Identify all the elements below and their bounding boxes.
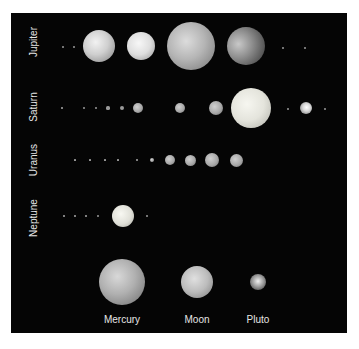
jupiter-moon-5 bbox=[227, 27, 265, 65]
neptune-moon-0 bbox=[63, 215, 65, 217]
label-moon: Moon bbox=[184, 314, 209, 325]
neptune-moon-2 bbox=[85, 215, 87, 217]
saturn-moon-1 bbox=[83, 107, 85, 109]
moon-body bbox=[181, 266, 213, 298]
row-label-saturn: Saturn bbox=[28, 92, 39, 121]
saturn-moon-6 bbox=[175, 103, 185, 113]
mercury-body bbox=[99, 259, 145, 305]
saturn-moon-5 bbox=[133, 103, 143, 113]
uranus-moon-3 bbox=[117, 159, 118, 160]
label-mercury: Mercury bbox=[104, 314, 140, 325]
jupiter-moon-3 bbox=[127, 32, 155, 60]
saturn-moon-4 bbox=[120, 106, 124, 110]
saturn-moon-7 bbox=[209, 101, 223, 115]
uranus-moon-7 bbox=[185, 155, 196, 166]
jupiter-moon-1 bbox=[73, 46, 75, 48]
neptune-moon-5 bbox=[146, 215, 148, 217]
jupiter-moon-4 bbox=[167, 22, 215, 70]
jupiter-moon-2 bbox=[83, 30, 115, 62]
saturn-moon-0 bbox=[61, 107, 63, 109]
neptune-moon-4 bbox=[112, 205, 134, 227]
uranus-moon-2 bbox=[104, 159, 105, 160]
row-label-uranus: Uranus bbox=[28, 144, 39, 176]
uranus-moon-6 bbox=[165, 155, 175, 165]
saturn-moon-10 bbox=[300, 102, 312, 114]
uranus-moon-5 bbox=[150, 158, 154, 162]
uranus-moon-9 bbox=[230, 154, 243, 167]
saturn-moon-8 bbox=[231, 88, 271, 128]
jupiter-moon-0 bbox=[62, 46, 64, 48]
row-label-neptune: Neptune bbox=[28, 199, 39, 237]
uranus-moon-1 bbox=[89, 159, 90, 160]
saturn-moon-3 bbox=[106, 106, 109, 109]
label-pluto: Pluto bbox=[247, 314, 270, 325]
uranus-moon-8 bbox=[205, 153, 219, 167]
row-label-jupiter: Jupiter bbox=[28, 27, 39, 57]
pluto-body bbox=[250, 274, 266, 290]
uranus-moon-4 bbox=[136, 159, 138, 161]
jupiter-moon-7 bbox=[304, 47, 306, 49]
neptune-moon-1 bbox=[74, 215, 76, 217]
uranus-moon-0 bbox=[74, 159, 75, 160]
